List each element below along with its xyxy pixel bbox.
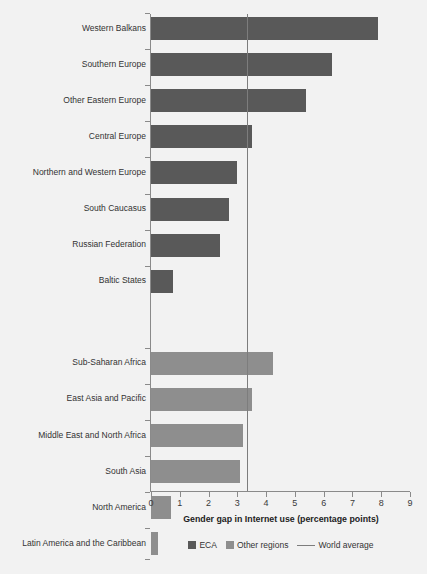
y-axis-tick [145, 384, 150, 385]
legend-item-other-regions[interactable]: Other regions [226, 540, 289, 550]
legend-item-world-average[interactable]: World average [297, 540, 373, 550]
legend-swatch-other-regions-icon [226, 541, 234, 549]
category-label-latin-america-and-the-caribbean: Latin America and the Caribbean [0, 538, 146, 548]
x-tick-label-8: 8 [371, 498, 391, 508]
bar-sub-saharan-africa [151, 352, 273, 375]
y-axis-tick [145, 194, 150, 195]
y-axis-tick [145, 492, 150, 493]
category-label-central-europe: Central Europe [0, 131, 146, 141]
bar-south-asia [151, 460, 240, 483]
x-axis-tick [237, 492, 238, 497]
x-axis-tick [410, 492, 411, 497]
x-tick-label-7: 7 [342, 498, 362, 508]
y-axis-tick [145, 348, 150, 349]
x-tick-label-6: 6 [314, 498, 334, 508]
category-label-baltic-states: Baltic States [0, 275, 146, 285]
y-axis-tick [145, 13, 150, 14]
x-axis-tick [180, 492, 181, 497]
x-tick-label-0: 0 [141, 498, 161, 508]
x-tick-label-9: 9 [400, 498, 420, 508]
category-label-other-eastern-europe: Other Eastern Europe [0, 95, 146, 105]
x-tick-label-5: 5 [285, 498, 305, 508]
legend-label-other-regions: Other regions [237, 540, 289, 550]
x-axis-tick [324, 492, 325, 497]
bar-central-europe [151, 125, 252, 148]
category-label-northern-and-western-europe: Northern and Western Europe [0, 167, 146, 177]
category-label-sub-saharan-africa: Sub-Saharan Africa [0, 357, 146, 367]
bar-middle-east-and-north-africa [151, 424, 243, 447]
y-axis-tick [145, 157, 150, 158]
category-label-middle-east-and-north-africa: Middle East and North Africa [0, 430, 146, 440]
x-tick-label-1: 1 [170, 498, 190, 508]
category-label-south-asia: South Asia [0, 466, 146, 476]
y-axis-tick [145, 266, 150, 267]
legend-label-eca: ECA [199, 540, 216, 550]
bar-northern-and-western-europe [151, 161, 237, 184]
bar-south-caucasus [151, 198, 229, 221]
y-axis-tick [145, 528, 150, 529]
bar-east-asia-and-pacific [151, 388, 252, 411]
category-label-southern-europe: Southern Europe [0, 59, 146, 69]
x-axis-tick [266, 492, 267, 497]
x-axis-line [150, 491, 410, 492]
y-axis-tick [145, 230, 150, 231]
category-label-north-america: North America [0, 502, 146, 512]
y-axis-tick [145, 559, 150, 560]
legend-line-world-average-icon [297, 545, 315, 546]
bar-western-balkans [151, 17, 378, 40]
x-tick-label-3: 3 [227, 498, 247, 508]
legend-label-world-average: World average [318, 540, 373, 550]
plot-area: Western BalkansSouthern EuropeOther East… [0, 0, 427, 574]
x-axis-tick [151, 492, 152, 497]
y-axis-tick [145, 49, 150, 50]
x-axis-tick [352, 492, 353, 497]
bar-baltic-states [151, 270, 173, 293]
world-average-reference-line [247, 14, 248, 491]
x-tick-label-2: 2 [199, 498, 219, 508]
x-axis-tick [295, 492, 296, 497]
x-axis-title: Gender gap in Internet use (percentage p… [150, 514, 412, 524]
y-axis-tick [145, 420, 150, 421]
y-axis-tick [145, 85, 150, 86]
bar-southern-europe [151, 53, 332, 76]
legend-item-eca[interactable]: ECA [188, 540, 216, 550]
legend-swatch-eca-icon [188, 541, 196, 549]
x-axis-tick [209, 492, 210, 497]
bar-other-eastern-europe [151, 89, 306, 112]
x-tick-label-4: 4 [256, 498, 276, 508]
y-axis-tick [145, 456, 150, 457]
category-label-russian-federation: Russian Federation [0, 239, 146, 249]
category-label-western-balkans: Western Balkans [0, 23, 146, 33]
x-axis-tick [381, 492, 382, 497]
category-label-east-asia-and-pacific: East Asia and Pacific [0, 393, 146, 403]
category-label-south-caucasus: South Caucasus [0, 203, 146, 213]
y-axis-tick [145, 121, 150, 122]
bar-russian-federation [151, 234, 220, 257]
chart-figure: Western BalkansSouthern EuropeOther East… [0, 0, 427, 574]
chart-legend: ECA Other regions World average [150, 540, 412, 550]
